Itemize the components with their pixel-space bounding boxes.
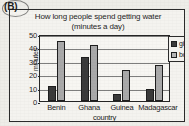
y-axis-tick-label: 40 [29, 45, 37, 52]
x-axis-label-benin: Benin [40, 103, 73, 112]
bar-group: Madagascar [138, 36, 171, 101]
x-axis-label-ghana: Ghana [73, 103, 106, 112]
bar-boys-ghana [90, 45, 98, 101]
chart-title-block: How long people spend getting water (min… [10, 12, 185, 31]
legend-swatch-boys [171, 52, 177, 58]
legend-item-girls[interactable]: girls [170, 38, 185, 49]
chart-subtitle: (minutes a day) [10, 22, 185, 32]
bar-girls-ghana [81, 57, 89, 101]
legend: girlsboys [168, 36, 185, 62]
bar-group: Benin [40, 36, 73, 101]
legend-label-boys: boys [179, 51, 185, 59]
bar-group: Ghana [73, 36, 106, 101]
bar-girls-guinea [113, 94, 121, 101]
bar-girls-madagascar [146, 89, 154, 101]
y-axis-tick-label: 30 [29, 59, 37, 66]
panel-label: (B) [4, 1, 17, 12]
chart-title: How long people spend getting water [35, 12, 161, 21]
x-axis-label-madagascar: Madagascar [138, 103, 171, 112]
y-axis-tick-label: 50 [29, 32, 37, 39]
bar-boys-benin [57, 41, 65, 101]
x-axis-label-guinea: Guinea [106, 103, 139, 112]
y-axis-tick-label: 10 [29, 86, 37, 93]
bar-group: Guinea [106, 36, 139, 101]
x-axis-title: country [39, 113, 170, 122]
plot-area: minutes 01020304050 BeninGhanaGuineaMada… [39, 35, 170, 102]
bar-girls-benin [48, 86, 56, 101]
legend-label-girls: girls [179, 40, 185, 48]
y-axis-tick-label: 0 [33, 99, 37, 106]
legend-item-boys[interactable]: boys [170, 49, 185, 60]
bar-boys-guinea [122, 70, 130, 101]
bar-boys-madagascar [155, 65, 163, 101]
y-axis-tick-label: 20 [29, 72, 37, 79]
legend-swatch-girls [171, 41, 177, 47]
chart-screenshot: (B) How long people spend getting water … [0, 0, 189, 126]
chart-frame: How long people spend getting water (min… [9, 9, 185, 122]
